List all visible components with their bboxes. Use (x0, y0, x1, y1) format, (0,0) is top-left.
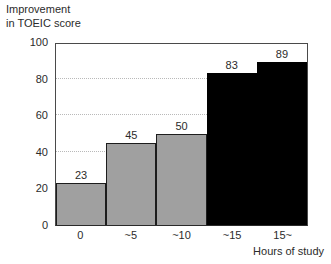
y-axis-tick-label: 20 (8, 182, 48, 194)
bar-value-label: 45 (107, 129, 155, 141)
bar-slot: 89 (257, 44, 307, 225)
x-axis-tick-label: 0 (55, 229, 106, 242)
y-axis-tick-label: 60 (8, 109, 48, 121)
y-axis-title-line-2: in TOEIC score (6, 16, 81, 30)
x-axis-tick-label: 15~ (257, 229, 308, 242)
x-axis-tick-label: ~10 (156, 229, 207, 242)
bar-value-label: 50 (157, 120, 205, 132)
x-axis-title: Hours of study (253, 245, 324, 257)
y-axis-tick-label: 80 (8, 73, 48, 85)
bar-slot: 50 (156, 44, 206, 225)
bar[interactable]: 83 (207, 73, 257, 225)
y-axis-title-line-1: Improvement (6, 2, 81, 16)
bar[interactable]: 45 (106, 143, 156, 225)
bar-slot: 83 (207, 44, 257, 225)
y-axis-title: Improvement in TOEIC score (6, 2, 81, 30)
bar-slot: 23 (56, 44, 106, 225)
bar-value-label: 83 (208, 59, 256, 71)
y-axis-tick-label: 0 (8, 219, 48, 231)
plot-area: 2345508389 (55, 43, 308, 226)
bar-slot: 45 (106, 44, 156, 225)
x-axis-tick-labels: 0~5~10~1515~ (55, 229, 308, 242)
bar-value-label: 89 (258, 48, 306, 60)
bar-chart: Improvement in TOEIC score 020406080100 … (0, 0, 331, 264)
y-axis-tick-label: 40 (8, 146, 48, 158)
y-axis-tick-label: 100 (8, 36, 48, 48)
bar[interactable]: 50 (156, 134, 206, 226)
bar-series: 2345508389 (56, 44, 307, 225)
bar-value-label: 23 (57, 169, 105, 181)
bar[interactable]: 89 (257, 62, 307, 225)
x-axis-tick-label: ~15 (207, 229, 258, 242)
bar[interactable]: 23 (56, 183, 106, 225)
x-axis-tick-label: ~5 (106, 229, 157, 242)
